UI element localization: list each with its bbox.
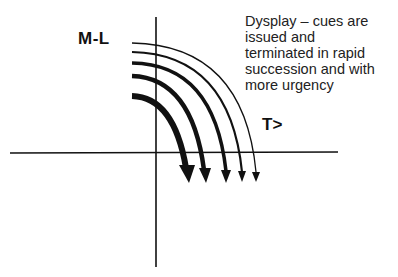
arrowhead-2-icon xyxy=(199,168,211,183)
description-text: Dysplay – cues are issued and terminated… xyxy=(245,13,398,93)
description-line: succession and with xyxy=(245,61,398,77)
arrowhead-1-icon xyxy=(179,165,195,183)
arc-arrow-2 xyxy=(132,76,204,170)
y-axis-label: M-L xyxy=(78,29,110,49)
description-line: more urgency xyxy=(245,77,398,93)
arc-arrow-1 xyxy=(132,96,186,168)
arrowhead-4-icon xyxy=(238,171,246,182)
x-axis-label: T> xyxy=(262,115,282,135)
arrowhead-5-icon xyxy=(252,172,260,182)
description-line: terminated in rapid xyxy=(245,45,398,61)
description-line: issued and xyxy=(245,29,398,45)
description-line: Dysplay – cues are xyxy=(245,13,398,29)
arrowhead-3-icon xyxy=(221,170,231,183)
x-axis xyxy=(10,152,338,153)
